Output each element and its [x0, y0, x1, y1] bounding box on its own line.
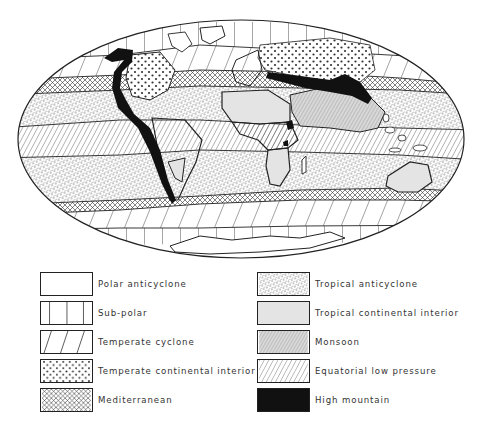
figure-caption	[18, 414, 458, 422]
swatch-solid-black-icon	[257, 388, 310, 412]
legend-item-temperate-cyclone: Temperate cyclone	[40, 329, 195, 354]
swatch-dots-icon	[40, 359, 93, 383]
legend-item-tropical-anticyclone: Tropical anticyclone	[257, 271, 418, 296]
legend-item-mediterranean: Mediterranean	[40, 387, 173, 412]
legend-label: Monsoon	[315, 337, 360, 347]
legend-label: Sub-polar	[98, 308, 147, 318]
legend-item-temperate-continental-interior: Temperate continental interior	[40, 358, 256, 383]
swatch-light-grey-icon	[257, 301, 310, 325]
legend-label: High mountain	[315, 395, 390, 405]
legend-item-monsoon: Monsoon	[257, 329, 360, 354]
swatch-narrow-diagonal-icon	[257, 359, 310, 383]
legend-label: Mediterranean	[98, 395, 173, 405]
legend-label: Temperate cyclone	[98, 337, 195, 347]
legend-item-sub-polar: Sub-polar	[40, 300, 147, 325]
legend-item-tropical-continental-interior: Tropical continental interior	[257, 300, 459, 325]
swatch-stipple-icon	[257, 330, 310, 354]
swatch-wide-diagonal-icon	[40, 330, 93, 354]
legend-label: Tropical continental interior	[315, 308, 459, 318]
legend-label: Temperate continental interior	[98, 366, 256, 376]
world-climate-map	[0, 0, 478, 262]
swatch-blank-icon	[40, 272, 93, 296]
swatch-vertical-lines-icon	[40, 301, 93, 325]
legend-label: Polar anticyclone	[98, 279, 187, 289]
legend-item-polar-anticyclone: Polar anticyclone	[40, 271, 187, 296]
swatch-short-dashes-icon	[257, 272, 310, 296]
legend-label: Tropical anticyclone	[315, 279, 418, 289]
legend-item-equatorial-low-pressure: Equatorial low pressure	[257, 358, 437, 383]
legend-label: Equatorial low pressure	[315, 366, 437, 376]
legend-item-high-mountain: High mountain	[257, 387, 390, 412]
swatch-crosshatch-icon	[40, 388, 93, 412]
